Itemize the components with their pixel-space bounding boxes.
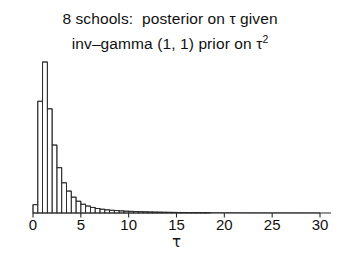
x-axis-tick-labels: 051015202530 [0, 216, 340, 240]
x-axis-label: τ [172, 233, 181, 251]
histogram-outline [33, 62, 320, 213]
figure-canvas: 8 schools: posterior on τ given inv–gamm… [0, 0, 340, 257]
histogram-bar [62, 183, 67, 213]
histogram-bar [43, 62, 48, 213]
histogram-bars [33, 62, 210, 213]
histogram-step-outline [33, 62, 320, 213]
histogram-bar [95, 208, 100, 213]
x-axis-tick-label: 5 [77, 216, 85, 233]
x-axis-tick-label: 20 [216, 216, 233, 233]
histogram-bar [76, 201, 81, 213]
histogram-bar [38, 101, 43, 213]
histogram-bar [71, 197, 76, 213]
histogram-bar [90, 207, 95, 213]
plot-area [0, 0, 340, 222]
histogram-bar [52, 145, 57, 213]
histogram-bar [100, 209, 105, 213]
x-axis-tick-label: 15 [168, 216, 185, 233]
histogram-bar [81, 204, 86, 213]
histogram-bar [47, 109, 52, 213]
histogram-plot [0, 0, 340, 222]
x-axis-tick-label: 25 [264, 216, 281, 233]
histogram-bar [66, 191, 71, 213]
histogram-bar [86, 206, 91, 213]
histogram-bar [33, 205, 38, 213]
x-axis-tick-label: 10 [120, 216, 137, 233]
histogram-bar [57, 168, 62, 213]
x-axis-tick-label: 30 [312, 216, 329, 233]
x-axis-tick-label: 0 [29, 216, 37, 233]
